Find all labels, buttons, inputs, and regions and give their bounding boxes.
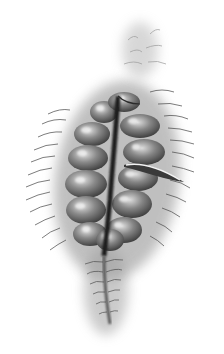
- bristle-worm-illustration: [0, 0, 224, 354]
- illustration-canvas: [0, 0, 224, 354]
